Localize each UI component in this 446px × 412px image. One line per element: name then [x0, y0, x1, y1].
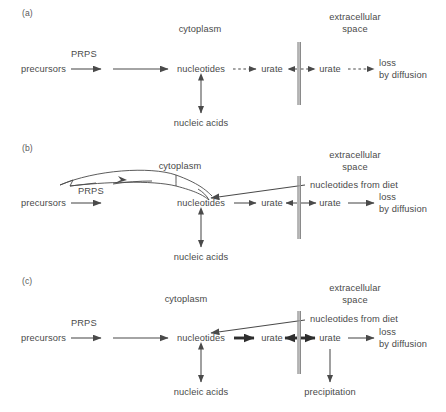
compartment-label-extracellular-space-c: extracellular space [310, 283, 400, 306]
loss-line2-b: by diffusion [379, 204, 427, 214]
compartment-label-extracellular-space-b: extracellular space [310, 150, 400, 173]
loss-line2-a: by diffusion [379, 70, 427, 80]
compartment-label-cytoplasm-b: cytoplasm [159, 161, 202, 172]
node-urate-extracellular-a: urate [319, 64, 341, 75]
panel-c-arrows [71, 320, 374, 382]
node-loss-by-diffusion-c: loss by diffusion [379, 327, 445, 350]
node-precipitation-c: precipitation [304, 387, 355, 398]
node-urate-intracellular-c: urate [261, 333, 283, 344]
membrane-a [298, 42, 300, 105]
extracellular-line2-c: space [342, 295, 367, 305]
compartment-label-cytoplasm-a: cytoplasm [179, 24, 222, 35]
node-loss-by-diffusion-b: loss by diffusion [379, 192, 445, 215]
node-prps-c: PRPS [71, 318, 97, 329]
node-nucleotides-b: nucleotides [177, 198, 225, 209]
node-urate-intracellular-b: urate [261, 198, 283, 209]
node-nucleotides-c: nucleotides [177, 333, 225, 344]
arrow-diet-to-nucleotides-b [211, 185, 305, 198]
loss-line1-a: loss [379, 58, 396, 68]
compartment-label-extracellular-space-a: extracellular space [310, 12, 400, 35]
node-nucleotides-from-diet-c: nucleotides from diet [310, 314, 398, 325]
compartment-label-cytoplasm-c: cytoplasm [165, 294, 208, 305]
node-precursors-c: precursors [21, 333, 66, 344]
extracellular-line2-a: space [342, 24, 367, 34]
node-precursors-b: precursors [21, 198, 66, 209]
panel-tag-b: (b) [22, 143, 33, 154]
node-urate-extracellular-b: urate [319, 198, 341, 209]
node-precursors-a: precursors [21, 64, 66, 75]
panel-tag-c: (c) [22, 276, 32, 287]
membrane-b [298, 176, 300, 239]
node-nucleotides-a: nucleotides [177, 64, 225, 75]
node-nucleic-acids-a: nucleic acids [174, 118, 229, 129]
figure-canvas: (a) cytoplasm extracellular space precur… [0, 0, 446, 412]
panel-tag-a: (a) [22, 8, 33, 19]
node-nucleic-acids-c: nucleic acids [174, 387, 229, 398]
panel-a-arrows [71, 69, 374, 113]
node-urate-intracellular-a: urate [261, 64, 283, 75]
loss-line2-c: by diffusion [379, 339, 427, 349]
extracellular-line1-a: extracellular [329, 12, 380, 22]
extracellular-line2-b: space [342, 162, 367, 172]
membrane-c [298, 311, 300, 374]
loss-line1-b: loss [379, 192, 396, 202]
extracellular-line1-c: extracellular [329, 283, 380, 293]
node-nucleotides-from-diet-b: nucleotides from diet [310, 180, 398, 191]
loss-line1-c: loss [379, 327, 396, 337]
node-prps-b: PRPS [78, 186, 104, 197]
arrow-diet-to-nucleotides-c [211, 320, 305, 333]
extracellular-line1-b: extracellular [329, 150, 380, 160]
node-nucleic-acids-b: nucleic acids [174, 252, 229, 263]
node-loss-by-diffusion-a: loss by diffusion [379, 58, 445, 81]
node-prps-a: PRPS [71, 49, 97, 60]
node-urate-extracellular-c: urate [319, 333, 341, 344]
